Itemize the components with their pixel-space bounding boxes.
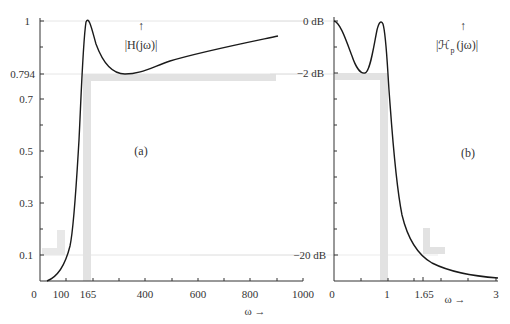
y-tick-label: 0.794 xyxy=(10,68,35,80)
panel-b: 0 dB −2 dB −20 dB 0 1 1.65 3 ω → ↑ |ℋp(j… xyxy=(190,15,499,305)
up-arrow-icon: ↑ xyxy=(460,19,466,33)
y-tick-label: 0.7 xyxy=(19,93,33,105)
panel-b-title: |ℋp(jω)| xyxy=(436,38,478,55)
y-tick-label: −20 dB xyxy=(293,249,326,261)
faded-caption xyxy=(120,310,380,320)
y-tick-label: 0 dB xyxy=(303,15,324,27)
x-tick-label: 3 xyxy=(493,288,499,300)
panel-a-label: (a) xyxy=(134,144,147,158)
y-tick-label: 0.5 xyxy=(19,145,33,157)
y-ticks xyxy=(40,21,44,255)
x-tick-label: 100 xyxy=(53,288,70,300)
y-ticks xyxy=(334,21,338,255)
stopband-spec-region xyxy=(423,228,445,254)
y-tick-label: 1 xyxy=(25,15,31,27)
x-tick-label: 400 xyxy=(137,288,154,300)
x-axis-label: ω → xyxy=(445,293,466,305)
panel-a-title: |H(jω)| xyxy=(125,38,158,52)
x-tick-label: 0 xyxy=(31,288,37,300)
figure: 1 0.794 0.7 0.5 0.3 0.1 0 100 165 400 60… xyxy=(0,0,510,324)
curve-h xyxy=(47,20,278,281)
x-tick-label: 600 xyxy=(190,288,207,300)
x-tick-label: 800 xyxy=(242,288,259,300)
y-tick-label: 0.3 xyxy=(19,197,33,209)
x-tick-label: 1 xyxy=(384,288,390,300)
x-tick-label: 165 xyxy=(80,288,97,300)
passband-spec-region xyxy=(335,73,388,281)
y-tick-label: 0.1 xyxy=(19,249,33,261)
y-tick-label: −2 dB xyxy=(297,67,324,79)
up-arrow-icon: ↑ xyxy=(138,19,144,33)
x-tick-label: 1000 xyxy=(292,288,315,300)
x-tick-label: 1.65 xyxy=(414,288,434,300)
panel-b-label: (b) xyxy=(461,146,475,160)
stopband-spec-region xyxy=(42,230,65,255)
panel-a: 1 0.794 0.7 0.5 0.3 0.1 0 100 165 400 60… xyxy=(10,15,314,317)
passband-spec-region xyxy=(83,74,276,281)
x-tick-label: 0 xyxy=(329,288,335,300)
